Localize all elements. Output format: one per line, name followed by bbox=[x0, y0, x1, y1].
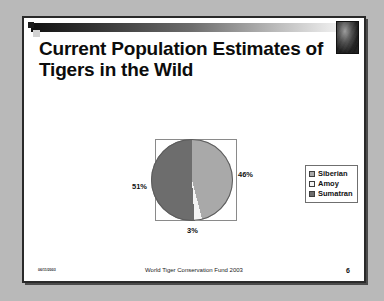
legend-label-amoy: Amoy bbox=[318, 179, 339, 188]
tiger-photo bbox=[336, 21, 359, 54]
pie-label-amoy: 3% bbox=[187, 226, 198, 235]
pie-chart[interactable] bbox=[151, 139, 233, 221]
legend-swatch-amoy bbox=[309, 181, 315, 187]
pie-label-siberian: 46% bbox=[238, 170, 253, 179]
header-gradient-band bbox=[31, 23, 340, 32]
header-square-dark-icon bbox=[28, 22, 34, 28]
footer-center-text: World Tiger Conservation Fund 2003 bbox=[24, 267, 364, 273]
page-title: Current Population Estimates of Tigers i… bbox=[39, 38, 339, 80]
legend-item-sumatran[interactable]: Sumatran bbox=[309, 189, 353, 198]
legend-swatch-sumatran bbox=[309, 191, 315, 197]
legend-label-siberian: Siberian bbox=[318, 169, 348, 178]
legend-item-amoy[interactable]: Amoy bbox=[309, 179, 353, 188]
pie-label-sumatran: 51% bbox=[132, 182, 147, 191]
chart-legend[interactable]: Siberian Amoy Sumatran bbox=[305, 165, 358, 203]
legend-item-siberian[interactable]: Siberian bbox=[309, 169, 353, 178]
footer-page-number: 6 bbox=[346, 267, 350, 274]
presentation-slide[interactable]: Current Population Estimates of Tigers i… bbox=[22, 16, 366, 283]
legend-swatch-siberian bbox=[309, 171, 315, 177]
header-square-light-icon bbox=[33, 30, 40, 37]
legend-label-sumatran: Sumatran bbox=[318, 189, 353, 198]
